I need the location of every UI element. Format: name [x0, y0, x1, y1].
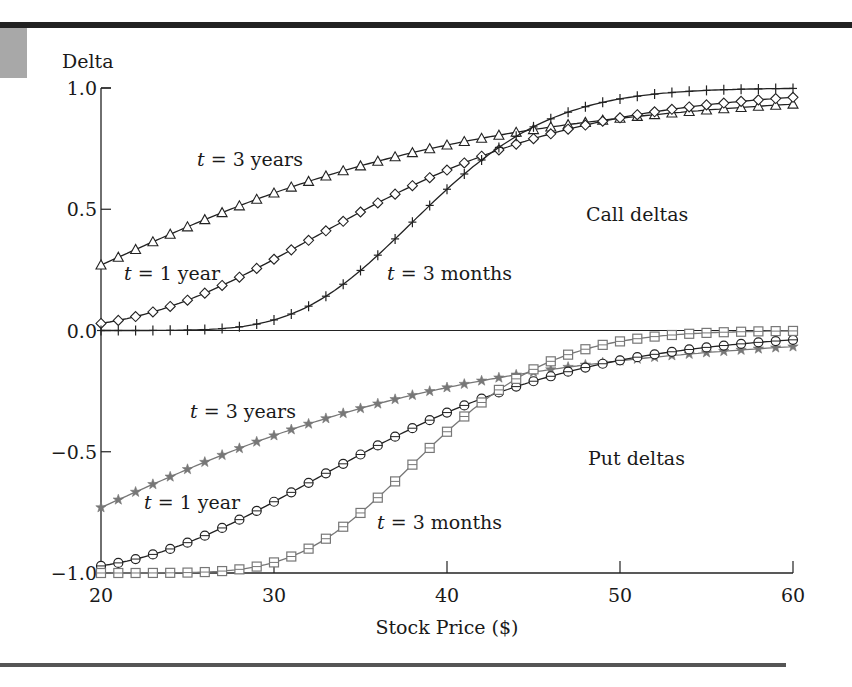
put-3y-label: t = 3 years — [190, 400, 296, 422]
x-tick-label: 50 — [608, 584, 632, 606]
call-3m-text: = 3 months — [395, 262, 512, 284]
series-circle — [97, 335, 798, 570]
series-triangle — [96, 99, 798, 269]
y-tick-label: 0.0 — [67, 320, 97, 342]
series-cross — [97, 83, 797, 335]
put-deltas-label: Put deltas — [588, 447, 685, 469]
x-tick-label: 60 — [781, 584, 805, 606]
put-3y-text: = 3 years — [198, 400, 296, 422]
y-tick-label: 0.5 — [67, 198, 97, 220]
put-3m-label: t = 3 months — [377, 511, 502, 533]
put-1y-label: t = 1 year — [144, 491, 241, 513]
call-3y-label: t = 3 years — [197, 148, 303, 170]
y-axis-label: Delta — [62, 50, 114, 72]
x-tick-label: 40 — [435, 584, 459, 606]
y-tick-label: 1.0 — [67, 77, 97, 99]
series-square — [97, 326, 798, 577]
y-tick-label: −1.0 — [51, 562, 97, 584]
delta-chart: 1.00.50.0−0.5−1.02030405060 Delta Stock … — [0, 0, 852, 687]
x-tick-label: 20 — [89, 584, 113, 606]
call-deltas-label: Call deltas — [586, 203, 688, 225]
x-axis-label: Stock Price ($) — [375, 616, 518, 638]
call-3m-label: t = 3 months — [387, 262, 512, 284]
call-1y-label: t = 1 year — [124, 262, 221, 284]
call-1y-text: = 1 year — [132, 262, 221, 284]
series-star — [96, 341, 798, 512]
y-tick-label: −0.5 — [51, 441, 97, 463]
x-tick-label: 30 — [262, 584, 286, 606]
series-diamond — [96, 92, 798, 328]
put-3m-text: = 3 months — [385, 511, 502, 533]
put-1y-text: = 1 year — [152, 491, 241, 513]
call-3y-text: = 3 years — [205, 148, 303, 170]
